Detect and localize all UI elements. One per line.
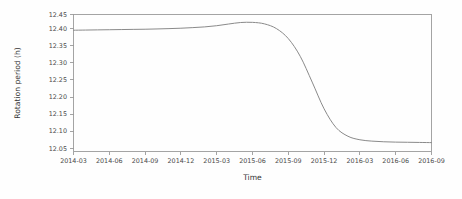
y-tick-label: 12.40: [49, 25, 67, 33]
x-axis-tick-labels: 2014-03 2014-06 2014-09 2014-12 2015-03 …: [60, 157, 445, 165]
x-tick-label: 2015-03: [203, 157, 230, 165]
y-axis-title: Rotation period (h): [13, 47, 22, 119]
y-tick-label: 12.35: [49, 42, 67, 50]
x-axis-title: Time: [242, 173, 262, 182]
data-series-line: [74, 22, 432, 142]
x-tick-label: 2015-09: [275, 157, 302, 165]
x-tick-label: 2014-06: [96, 157, 123, 165]
y-axis-tick-labels: 12.05 12.10 12.15 12.20 12.25 12.30 12.3…: [49, 11, 67, 153]
x-tick-label: 2014-03: [60, 157, 87, 165]
y-tick-label: 12.20: [49, 93, 67, 101]
plot-frame: [74, 15, 432, 152]
y-tick-label: 12.15: [49, 110, 67, 118]
x-tick-label: 2016-06: [382, 157, 409, 165]
y-tick-label: 12.30: [49, 59, 67, 67]
x-tick-label: 2014-12: [168, 157, 195, 165]
x-tick-label: 2016-03: [347, 157, 374, 165]
y-tick-label: 12.25: [49, 76, 67, 84]
y-tick-label: 12.10: [49, 127, 67, 135]
y-tick-label: 12.45: [49, 11, 67, 19]
rotation-period-line-chart: 12.05 12.10 12.15 12.20 12.25 12.30 12.3…: [0, 0, 462, 199]
x-tick-label: 2015-06: [239, 157, 266, 165]
x-tick-label: 2014-09: [132, 157, 159, 165]
x-axis-ticks: [74, 152, 432, 156]
x-tick-label: 2015-12: [311, 157, 338, 165]
y-axis-ticks: [70, 15, 74, 149]
chart-figure: 12.05 12.10 12.15 12.20 12.25 12.30 12.3…: [0, 0, 462, 199]
y-tick-label: 12.05: [49, 145, 67, 153]
x-tick-label: 2016-09: [418, 157, 445, 165]
